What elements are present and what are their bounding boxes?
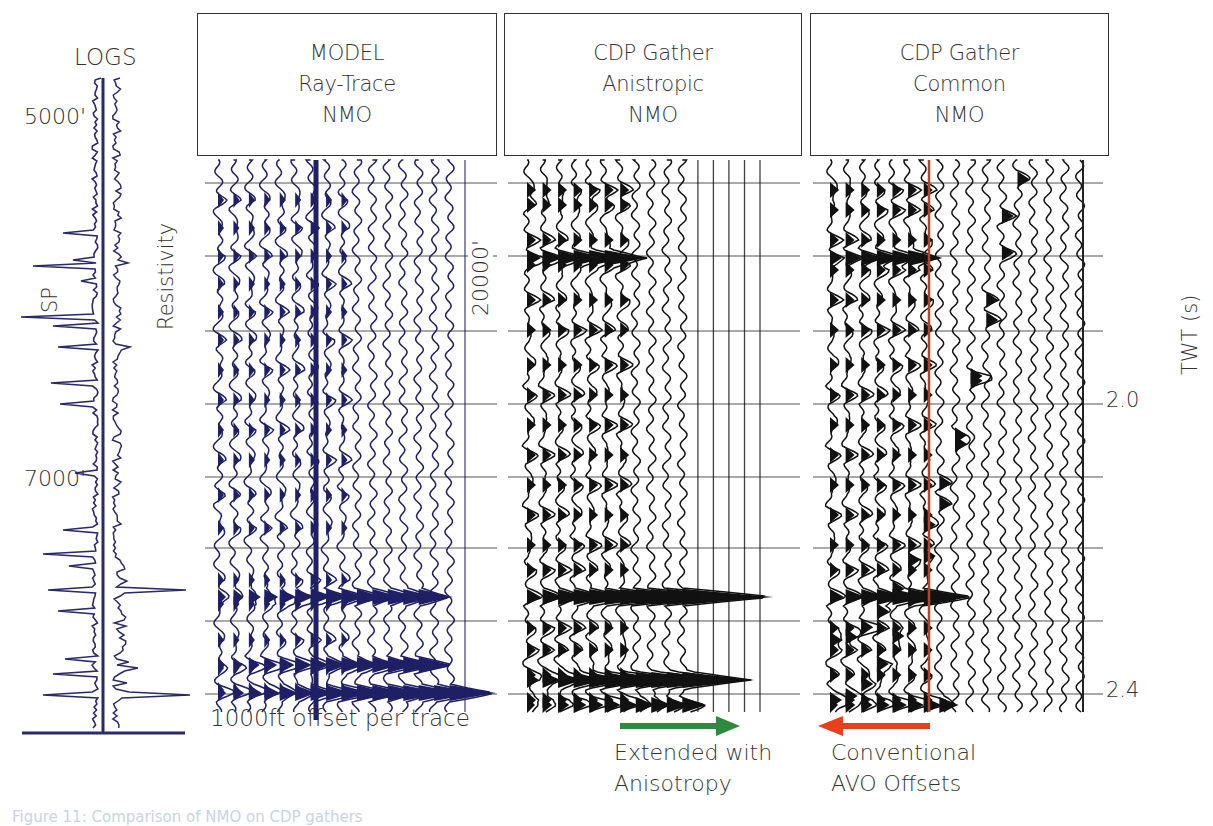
common-panel-wavelet <box>861 357 870 373</box>
model-panel-wavelet <box>249 685 262 701</box>
common-panel-trace <box>1013 160 1030 712</box>
model-panel-trace <box>352 160 387 712</box>
common-panel-wavelet <box>846 322 855 338</box>
common-panel-wavelet <box>846 477 855 493</box>
model-panel-wavelet <box>218 220 224 236</box>
common-panel-trace <box>1044 160 1054 712</box>
common-panel-trace <box>997 160 1017 712</box>
common-panel-wavelet <box>830 250 842 266</box>
anisotropic-panel-trace <box>678 160 765 712</box>
model-panel-wavelet <box>233 220 239 236</box>
red-arrow-label-2: AVO Offsets <box>831 771 961 796</box>
model-panel-wavelet <box>218 632 224 648</box>
anisotropic-panel-wavelet <box>527 477 536 493</box>
common-panel-wavelet <box>893 447 902 463</box>
model-panel-wavelet <box>233 657 242 673</box>
model-panel-wavelet <box>280 487 286 503</box>
anisotropic-panel-wavelet <box>620 447 629 463</box>
common-panel-wavelet <box>877 357 886 373</box>
model-panel-wavelet <box>264 520 270 536</box>
common-panel-wavelet <box>908 292 917 308</box>
common-panel-wavelet <box>1002 208 1014 224</box>
model-panel-wavelet <box>280 589 296 605</box>
common-panel-wavelet <box>830 632 842 648</box>
anisotropic-panel-trace <box>631 160 699 712</box>
sp-log-curve <box>21 78 101 728</box>
model-panel-wavelet <box>233 487 239 503</box>
resistivity-log-curve <box>113 78 191 728</box>
model-panel-wavelet <box>249 248 255 264</box>
anisotropic-panel-wavelet <box>543 477 552 493</box>
model-panel-wavelet <box>264 589 278 605</box>
green-arrow-label-2: Anisotropy <box>614 771 732 796</box>
anisotropic-panel-wavelet <box>605 232 614 248</box>
model-panel-trace <box>429 160 472 712</box>
red-arrow-label-1: Conventional <box>831 740 976 765</box>
model-panel-wavelet <box>249 332 255 348</box>
green-arrow-shaft <box>620 723 720 729</box>
common-panel-wavelet <box>846 629 858 645</box>
anisotropic-panel-wavelet <box>620 697 638 713</box>
anisotropic-panel-wavelet <box>558 357 567 373</box>
anisotropic-panel-wavelet <box>574 357 583 373</box>
common-panel-wavelet <box>893 292 902 308</box>
anisotropic-panel-wavelet <box>543 197 552 213</box>
anisotropic-panel-wavelet <box>682 672 754 688</box>
anisotropic-panel-wavelet <box>605 447 614 463</box>
anisotropic-panel-wavelet <box>620 562 629 578</box>
anisotropic-panel-wavelet <box>589 562 598 578</box>
common-panel-trace <box>935 160 955 712</box>
anisotropic-panel-wavelet <box>589 447 598 463</box>
common-panel-wavelet <box>861 676 873 692</box>
anisotropic-panel-wavelet <box>527 197 536 213</box>
model-panel-wavelet <box>342 362 348 378</box>
anisotropic-panel-wavelet <box>558 537 567 553</box>
red-arrow-shaft <box>840 723 930 729</box>
anisotropic-panel-wavelet <box>589 642 598 658</box>
anisotropic-panel-wavelet <box>605 292 614 308</box>
model-panel-trace <box>244 160 267 712</box>
common-panel-wavelet <box>877 562 886 578</box>
common-panel-wavelet <box>861 477 870 493</box>
model-panel-wavelet <box>342 220 348 236</box>
common-panel-wavelet <box>846 357 855 373</box>
anisotropic-panel-wavelet <box>574 232 583 248</box>
common-panel-wavelet <box>861 537 870 553</box>
anisotropic-panel-wavelet <box>543 357 552 373</box>
common-panel-wavelet <box>830 477 839 493</box>
model-panel-wavelet <box>218 487 224 503</box>
model-panel-trace <box>229 160 252 712</box>
model-panel-wavelet <box>295 422 301 438</box>
axis-tick-2-0: 2.0 <box>1106 388 1139 412</box>
model-panel-wavelet <box>342 248 348 264</box>
model-panel-wavelet <box>326 520 332 536</box>
model-panel-wavelet <box>233 572 239 588</box>
common-panel-wavelet <box>908 447 917 463</box>
anisotropic-panel-wavelet <box>543 642 552 658</box>
anisotropic-panel-wavelet <box>543 322 552 338</box>
axis-tick-2-4: 2.4 <box>1106 678 1139 702</box>
common-panel-wavelet <box>893 642 902 658</box>
axis-title: TWT (s) <box>1178 295 1202 375</box>
distance-label: 20000' <box>468 238 493 318</box>
common-panel-wavelet <box>846 250 862 266</box>
model-panel-trace <box>213 160 234 712</box>
model-panel-trace <box>275 160 301 712</box>
common-panel-trace <box>982 160 1002 712</box>
common-panel-wavelet <box>908 232 917 248</box>
model-panel-wavelet <box>233 452 239 468</box>
model-panel-wavelet <box>342 632 348 648</box>
anisotropic-panel-trace <box>662 160 742 712</box>
anisotropic-panel-wavelet <box>558 477 567 493</box>
anisotropic-panel-wavelet <box>574 197 583 213</box>
green-arrow-head-icon <box>716 716 740 736</box>
anisotropic-panel-wavelet <box>574 562 583 578</box>
red-arrow-head-icon <box>818 716 843 736</box>
model-panel-wavelet <box>295 248 301 264</box>
green-arrow-label-1: Extended with <box>614 740 772 765</box>
model-panel-trace <box>306 160 336 712</box>
model-panel-wavelet <box>233 685 244 701</box>
model-panel-wavelet <box>342 304 348 320</box>
offset-label: 1000ft offset per trace <box>210 705 470 731</box>
